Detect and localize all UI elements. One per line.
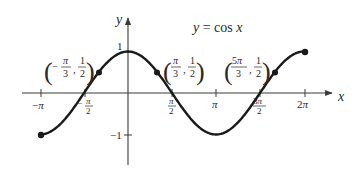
svg-text:1: 1 — [190, 55, 195, 66]
tick-label-y-neg-1: −1 — [110, 129, 122, 141]
svg-text:2: 2 — [257, 106, 262, 116]
point-5pi-over-3 — [272, 70, 278, 76]
tick-label-2pi: 2π — [297, 98, 309, 110]
svg-text:3: 3 — [236, 68, 241, 79]
svg-text:1: 1 — [80, 55, 85, 66]
cosine-graph: x y −π − π 2 π 2 π 3π 2 2π 1 −1 — [0, 0, 353, 178]
svg-text:,: , — [249, 63, 252, 75]
svg-text:−: − — [52, 61, 58, 72]
svg-text:): ) — [262, 57, 271, 86]
svg-text:π: π — [169, 96, 174, 106]
x-axis-label: x — [337, 89, 345, 104]
tick-label-neg-pi: −π — [32, 99, 44, 111]
endpoint-left — [38, 132, 44, 138]
svg-text:π: π — [63, 55, 69, 66]
svg-text:3: 3 — [173, 68, 178, 79]
graph-title: y = cos x — [191, 20, 243, 35]
svg-text:π: π — [86, 96, 91, 106]
svg-text:): ) — [196, 57, 205, 86]
svg-text:2: 2 — [86, 106, 91, 116]
svg-text:2: 2 — [169, 106, 174, 116]
svg-text:5π: 5π — [232, 55, 243, 66]
svg-text:3: 3 — [63, 68, 68, 79]
svg-text:(: ( — [163, 57, 172, 86]
svg-text:,: , — [183, 63, 186, 75]
svg-text:,: , — [73, 63, 76, 75]
tick-label-y-1: 1 — [117, 40, 123, 52]
annotation-5pi-over-3: ( 5π 3 , 1 2 ) — [224, 55, 271, 86]
svg-text:1: 1 — [256, 55, 261, 66]
tick-label-pi: π — [212, 98, 218, 110]
svg-text:2: 2 — [80, 68, 85, 79]
svg-text:): ) — [86, 57, 95, 86]
annotation-neg-pi-over-3: ( − π 3 , 1 2 ) — [44, 55, 95, 86]
svg-text:2: 2 — [190, 68, 195, 79]
point-pi-over-3 — [154, 70, 160, 76]
point-neg-pi-over-3 — [96, 70, 102, 76]
svg-text:2: 2 — [256, 68, 261, 79]
annotation-pi-over-3: ( π 3 , 1 2 ) — [163, 55, 205, 86]
svg-text:π: π — [173, 55, 179, 66]
endpoint-right — [302, 49, 308, 55]
y-axis-label: y — [114, 12, 123, 27]
